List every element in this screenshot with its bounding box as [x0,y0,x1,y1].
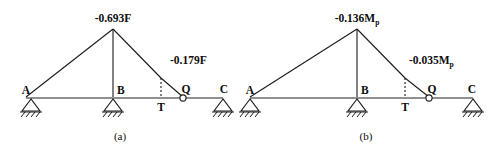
panel-a: A B T Q C -0.693F -0.179F (a) [20,12,234,143]
node-label-a-Q: Q [182,83,191,95]
node-label-b-T: T [401,101,409,113]
secondary-value-label-a: -0.179F [170,54,207,66]
moment-segment-a-bt [113,29,161,78]
secondary-value-label-b: -0.035Mp [409,54,454,69]
support-b-C [462,99,484,117]
node-label-a-B: B [117,84,125,96]
moment-segment-a-ab [26,29,113,97]
caption-b: (b) [360,130,373,143]
peak-value-label-a: -0.693F [95,12,132,24]
node-label-a-A: A [22,84,31,96]
node-label-b-C: C [468,83,476,95]
secondary-value-sub-b: p [450,60,454,69]
support-b-A [239,99,261,117]
node-label-b-Q: Q [428,83,437,95]
support-a-A [20,99,42,117]
moment-segment-a-tq [161,78,183,97]
support-a-B [102,99,124,117]
support-a-C [212,99,234,117]
node-label-a-C: C [220,83,228,95]
moment-segment-b-bt [357,29,405,78]
node-label-a-T: T [157,101,165,113]
peak-value-main-b: -0.136M [335,12,376,24]
secondary-value-main-b: -0.035M [409,54,450,66]
peak-value-sub-b: p [375,18,379,27]
caption-a: (a) [114,130,127,143]
figure-canvas: A B T Q C -0.693F -0.179F (a) [0,0,492,151]
moment-segment-b-ab [250,29,357,97]
peak-value-label-b: -0.136Mp [335,12,380,27]
node-label-b-A: A [246,84,255,96]
hinge-a-Q [180,95,186,101]
node-label-b-B: B [361,84,369,96]
moment-segment-b-tq [405,78,429,97]
hinge-b-Q [426,95,432,101]
support-b-B [346,99,368,117]
panel-b: A B T Q C -0.136Mp -0.035Mp (b) [239,12,484,143]
bending-moment-figure: A B T Q C -0.693F -0.179F (a) [0,0,492,151]
